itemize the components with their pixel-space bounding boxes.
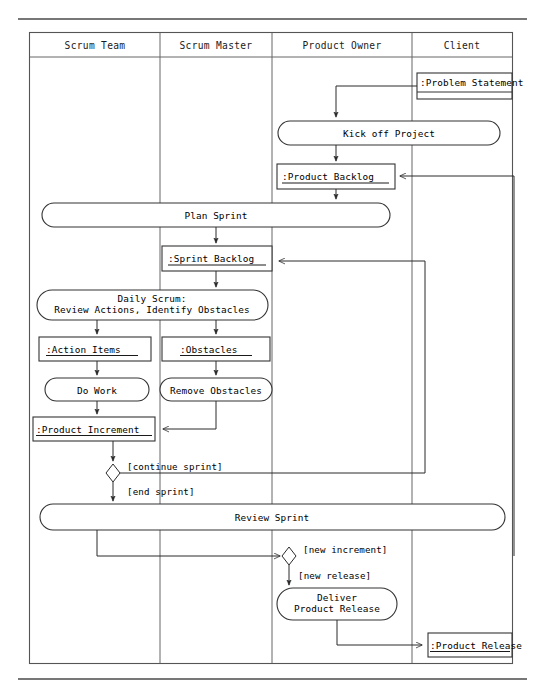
object-node-problem-statement[interactable]: :Problem Statement [417, 73, 523, 99]
decision-new-increment-release[interactable] [282, 547, 296, 565]
activity-do-work[interactable]: Do Work [45, 378, 149, 401]
review-sprint-label: Review Sprint [235, 512, 310, 523]
object-node-product-release[interactable]: :Product Release [428, 633, 522, 657]
activity-deliver-product-release[interactable]: Deliver Product Release [277, 588, 397, 620]
decision-continue-end-sprint[interactable] [106, 464, 120, 482]
object-node-product-backlog[interactable]: :Product Backlog [277, 164, 395, 189]
guard-end-sprint: [end sprint] [127, 486, 195, 497]
guard-new-increment: [new increment] [303, 544, 387, 555]
sprint-backlog-label: :Sprint Backlog [168, 253, 254, 264]
object-node-product-increment[interactable]: :Product Increment [33, 417, 155, 441]
flow-deliver-to-product-release [337, 620, 422, 645]
activity-kick-off-project[interactable]: Kick off Project [278, 121, 500, 145]
flow-remove-obstacles-to-product-increment [163, 401, 216, 429]
object-node-action-items[interactable]: :Action Items [39, 337, 151, 361]
deliver-product-release-label-line1: Deliver [317, 592, 357, 603]
activity-daily-scrum[interactable]: Daily Scrum: Review Actions, Identify Ob… [37, 290, 268, 320]
guard-new-release: [new release] [298, 570, 371, 581]
object-node-sprint-backlog[interactable]: :Sprint Backlog [162, 246, 272, 271]
obstacles-label: :Obstacles [180, 344, 237, 355]
lane-header-product-owner: Product Owner [303, 40, 382, 51]
product-backlog-label: :Product Backlog [282, 171, 374, 182]
daily-scrum-label-line1: Daily Scrum: [118, 293, 187, 304]
problem-statement-label: :Problem Statement [420, 77, 523, 88]
lane-header-scrum-master: Scrum Master [180, 40, 253, 51]
product-release-label: :Product Release [430, 640, 522, 651]
plan-sprint-label: Plan Sprint [184, 210, 247, 221]
guard-continue-sprint: [continue sprint] [127, 461, 223, 472]
activity-plan-sprint[interactable]: Plan Sprint [42, 203, 390, 227]
do-work-label: Do Work [77, 385, 117, 396]
action-items-label: :Action Items [46, 344, 121, 355]
kick-off-project-label: Kick off Project [343, 128, 435, 139]
activity-diagram-canvas: Scrum Team Scrum Master Product Owner Cl… [0, 0, 543, 698]
activity-review-sprint[interactable]: Review Sprint [40, 504, 505, 530]
activity-remove-obstacles[interactable]: Remove Obstacles [160, 378, 272, 401]
lane-header-scrum-team: Scrum Team [65, 40, 126, 51]
deliver-product-release-label-line2: Product Release [294, 603, 380, 614]
product-increment-label: :Product Increment [36, 424, 139, 435]
lane-header-client: Client [444, 40, 480, 51]
daily-scrum-label-line2: Review Actions, Identify Obstacles [54, 304, 249, 315]
flow-problem-statement-to-kickoff [336, 86, 417, 117]
flow-new-increment-to-product-backlog [400, 176, 514, 556]
flow-review-sprint-to-decision [97, 530, 280, 556]
remove-obstacles-label: Remove Obstacles [170, 385, 262, 396]
object-node-obstacles[interactable]: :Obstacles [162, 337, 270, 361]
